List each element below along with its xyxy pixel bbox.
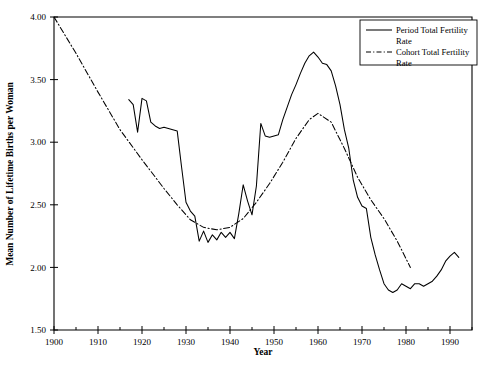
x-tick-label: 1900 — [45, 337, 64, 347]
x-tick-label: 1920 — [133, 337, 152, 347]
x-tick-label: 1960 — [309, 337, 328, 347]
series-period-total-fertility-rate — [129, 52, 459, 292]
series-cohort-total-fertility-rate — [54, 17, 410, 267]
x-tick-label: 1980 — [397, 337, 416, 347]
x-axis-ticks: 1900191019201930194019501960197019801990 — [45, 326, 472, 347]
fertility-rate-line-chart: 1.502.002.503.003.504.00 190019101920193… — [0, 0, 487, 366]
y-tick-label: 3.00 — [30, 137, 46, 147]
y-tick-label: 3.50 — [30, 75, 46, 85]
x-tick-label: 1910 — [89, 337, 108, 347]
x-tick-label: 1940 — [221, 337, 240, 347]
y-tick-label: 2.00 — [30, 263, 46, 273]
x-tick-label: 1930 — [177, 337, 196, 347]
legend: Period Total FertilityRate Cohort Total … — [360, 20, 477, 68]
x-tick-label: 1990 — [441, 337, 460, 347]
x-tick-label: 1970 — [353, 337, 372, 347]
x-tick-label: 1950 — [265, 337, 284, 347]
chart-page: 1.502.002.503.003.504.00 190019101920193… — [0, 0, 487, 366]
y-tick-label: 4.00 — [30, 12, 46, 22]
y-tick-label: 1.50 — [30, 325, 46, 335]
y-tick-label: 2.50 — [30, 200, 46, 210]
x-axis-title: Year — [254, 347, 274, 357]
y-axis-title: Mean Number of Lifetime Births per Woman — [5, 81, 15, 265]
